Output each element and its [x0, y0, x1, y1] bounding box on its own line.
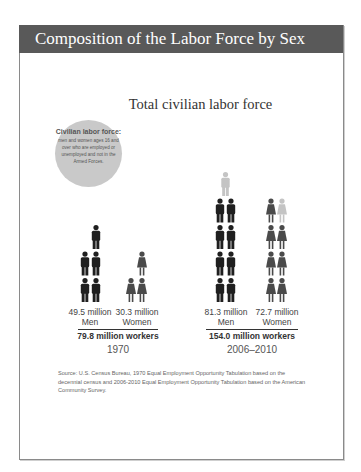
man-icon: [81, 278, 89, 302]
series-label: Women: [247, 317, 307, 327]
woman-icon: [137, 278, 147, 302]
period-2010: 2006–2010: [192, 344, 312, 355]
man-icon: [216, 278, 224, 302]
man-icon: [227, 199, 235, 223]
woman-icon: [266, 252, 276, 276]
total-1970: 79.8 million workers: [58, 331, 178, 341]
value-label: 72.7 million: [247, 307, 307, 317]
man-icon: [92, 225, 100, 249]
man-icon: [216, 252, 224, 276]
man-icon: [216, 199, 224, 223]
woman-icon: [137, 252, 147, 276]
woman-icon: [266, 199, 276, 223]
man-icon: [81, 252, 89, 276]
man-icon: [92, 278, 100, 302]
woman-icon-partial: [277, 199, 287, 223]
man-icon: [216, 225, 224, 249]
man-icon: [227, 225, 235, 249]
man-icon: [227, 278, 235, 302]
woman-icon: [277, 252, 287, 276]
woman-icon: [126, 278, 136, 302]
pictograph-chart: [0, 0, 361, 472]
period-1970: 1970: [58, 344, 178, 355]
woman-icon: [266, 278, 276, 302]
divider-1970: [78, 329, 158, 330]
total-2010: 154.0 million workers: [192, 331, 312, 341]
man-icon-partial: [221, 172, 229, 196]
source-note: Source: U.S. Census Bureau, 1970 Equal E…: [58, 369, 308, 395]
series-label: Women: [107, 317, 167, 327]
divider-2010: [206, 329, 298, 330]
man-icon: [92, 252, 100, 276]
woman-icon: [266, 225, 276, 249]
label-1970-women: 30.3 million Women: [107, 307, 167, 327]
woman-icon: [277, 225, 287, 249]
woman-icon: [277, 278, 287, 302]
label-2010-women: 72.7 million Women: [247, 307, 307, 327]
man-icon: [227, 252, 235, 276]
value-label: 30.3 million: [107, 307, 167, 317]
